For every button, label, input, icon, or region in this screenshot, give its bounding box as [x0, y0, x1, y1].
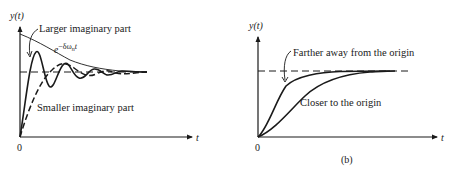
smaller-imaginary-curve — [20, 64, 147, 137]
closer-label: Closer to the origin — [300, 97, 382, 108]
y-axis-label: y(t) — [9, 10, 25, 22]
panel-caption: (b) — [341, 154, 353, 166]
smaller-imaginary-label: Smaller imaginary part — [37, 102, 134, 113]
farther-label: Farther away from the origin — [293, 47, 415, 58]
origin-label: 0 — [17, 142, 22, 153]
envelope-label: e−δωnt — [54, 42, 78, 55]
x-axis-label: t — [196, 132, 199, 143]
farther-leader-line — [284, 51, 291, 80]
panel-a: y(t) t 0 Larger imaginary part e−δωnt Sm… — [9, 10, 199, 153]
origin-label: 0 — [255, 142, 260, 153]
figure-canvas: y(t) t 0 Larger imaginary part e−δωnt Sm… — [0, 0, 459, 172]
larger-imaginary-label: Larger imaginary part — [39, 23, 131, 34]
x-axis-label: t — [441, 132, 444, 143]
y-axis-label: y(t) — [248, 20, 264, 32]
panel-b: y(t) t 0 Farther away from the origin Cl… — [248, 20, 444, 166]
